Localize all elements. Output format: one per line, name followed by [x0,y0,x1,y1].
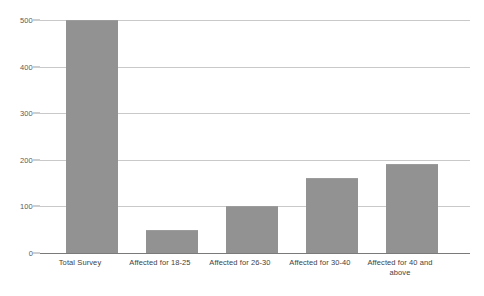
x-axis-line [40,253,470,254]
y-tick-label-0: 0 [0,249,33,258]
y-tick-label-300: 300 [0,109,33,118]
y-tick-stub-200 [33,159,40,160]
bar-affected-30-40[interactable] [306,178,358,253]
x-label-affected-40-and-above: Affected for 40 and above [360,258,440,278]
x-label-affected-18-25: Affected for 18-25 [120,258,200,268]
y-tick-stub-500 [33,20,40,21]
bar-affected-26-30[interactable] [226,206,278,253]
bar-total-survey[interactable] [66,20,118,253]
y-tick-stub-100 [33,206,40,207]
x-label-affected-30-40: Affected for 30-40 [280,258,360,268]
x-label-total-survey: Total Survey [40,258,120,268]
bar-affected-18-25[interactable] [146,230,198,253]
y-tick-label-500: 500 [0,16,33,25]
y-tick-stub-400 [33,66,40,67]
x-label-affected-26-30: Affected for 26-30 [200,258,280,268]
y-tick-label-200: 200 [0,155,33,164]
bars-layer [40,20,470,253]
y-tick-label-100: 100 [0,202,33,211]
y-tick-label-400: 400 [0,62,33,71]
bar-chart: 500 400 300 200 100 0 Total Survey Affec… [0,0,484,296]
y-tick-stub-300 [33,113,40,114]
y-tick-stub-0 [33,253,40,254]
bar-affected-40-and-above[interactable] [386,164,438,253]
x-axis-labels: Total Survey Affected for 18-25 Affected… [40,258,470,292]
